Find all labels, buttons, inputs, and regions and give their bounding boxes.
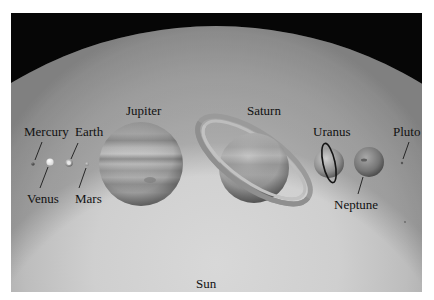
label-mars: Mars bbox=[75, 192, 102, 205]
label-sun: Sun bbox=[196, 277, 216, 290]
planets-layer bbox=[0, 0, 434, 300]
label-venus: Venus bbox=[27, 192, 59, 205]
planet-venus bbox=[46, 158, 53, 165]
label-saturn: Saturn bbox=[247, 104, 281, 117]
label-neptune: Neptune bbox=[334, 198, 378, 211]
label-mercury: Mercury bbox=[24, 125, 69, 138]
label-earth: Earth bbox=[75, 125, 103, 138]
planet-saturn bbox=[184, 100, 323, 220]
planet-neptune bbox=[354, 147, 384, 177]
planet-mercury bbox=[31, 162, 34, 165]
label-uranus: Uranus bbox=[313, 125, 351, 138]
label-pluto: Pluto bbox=[393, 125, 420, 138]
planet-pluto bbox=[401, 162, 403, 164]
planet-jupiter bbox=[99, 122, 183, 206]
planet-mars bbox=[85, 162, 89, 166]
planet-uranus bbox=[314, 142, 344, 184]
label-jupiter: Jupiter bbox=[126, 104, 161, 117]
